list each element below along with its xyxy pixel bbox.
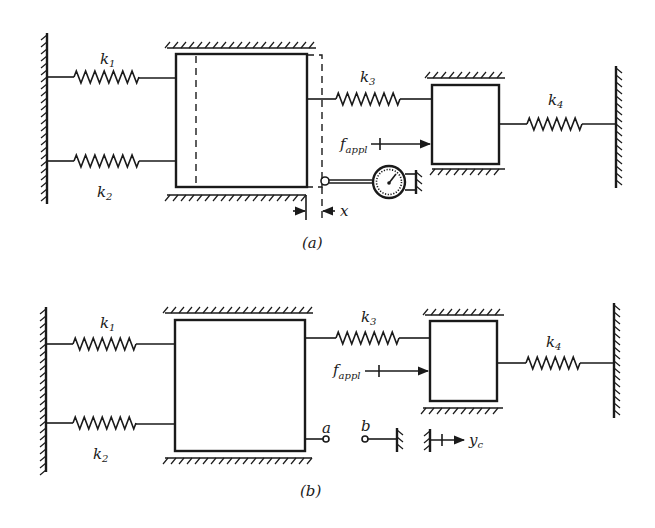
spring-k2-a [47, 155, 176, 167]
label-terminal-a: a [322, 419, 331, 437]
label-k1-a: k1 [100, 50, 115, 69]
force-arrow-a [371, 138, 430, 150]
spring-k1-a [47, 71, 176, 83]
bottom-guide-b [163, 458, 312, 464]
spring-k1-b [46, 338, 175, 350]
label-fappl-a: fappl [339, 135, 368, 155]
caption-b: (b) [300, 482, 321, 500]
displacement-yc-b [424, 429, 464, 452]
mass-2-b [430, 321, 497, 401]
top-guide-b [163, 307, 313, 313]
panel-b: k1 k2 k3 fappl [40, 303, 620, 500]
spring-k2-b [46, 417, 175, 429]
spring-k4-b [497, 357, 614, 369]
top-guide-a [165, 42, 316, 48]
label-x-a: x [340, 202, 349, 220]
left-wall-b [40, 307, 46, 475]
bottom-guide-small-b [421, 408, 503, 414]
panel-a: k1 k2 k3 fappl [41, 33, 622, 252]
label-k3-b: k3 [361, 308, 376, 327]
label-k1-b: k1 [100, 314, 115, 333]
bottom-guide-small-a [430, 169, 505, 175]
spring-mass-diagram: k1 k2 k3 fappl [0, 0, 655, 528]
mass-2-a [432, 85, 499, 164]
top-guide-small-b [423, 309, 504, 315]
label-k2-b: k2 [93, 445, 108, 464]
label-k4-b: k4 [546, 333, 561, 352]
label-terminal-b: b [361, 417, 371, 435]
spring-k3-b [305, 332, 430, 344]
label-k3-a: k3 [360, 68, 375, 87]
top-guide-small-a [425, 72, 505, 78]
spring-k3-a [307, 93, 432, 105]
dial-gauge-icon [321, 166, 422, 198]
left-wall-a [41, 33, 47, 204]
label-yc-b: yc [468, 431, 483, 450]
bottom-guide-a [165, 195, 306, 220]
mass-1-b [175, 320, 305, 451]
caption-a: (a) [302, 234, 323, 252]
spring-k4-a [499, 118, 616, 130]
right-wall-a [616, 66, 622, 188]
label-k4-a: k4 [548, 91, 563, 110]
right-wall-b [614, 303, 620, 418]
force-arrow-b [365, 365, 428, 377]
label-k2-a: k2 [97, 183, 112, 202]
label-fappl-b: fappl [332, 361, 361, 381]
